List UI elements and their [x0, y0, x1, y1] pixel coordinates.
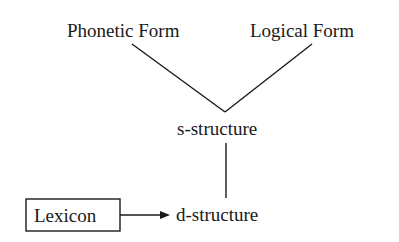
node-d-structure: d-structure	[176, 204, 258, 225]
node-s-structure: s-structure	[177, 118, 257, 139]
edge-logical-form-to-s-structure	[225, 44, 312, 112]
arrowhead-icon	[160, 211, 170, 219]
grammar-model-diagram: Phonetic Form Logical Form s-structure L…	[0, 0, 399, 242]
node-lexicon: Lexicon	[34, 205, 97, 226]
edge-phonetic-form-to-s-structure	[132, 44, 225, 112]
node-phonetic-form: Phonetic Form	[67, 20, 180, 41]
node-logical-form: Logical Form	[250, 20, 354, 41]
